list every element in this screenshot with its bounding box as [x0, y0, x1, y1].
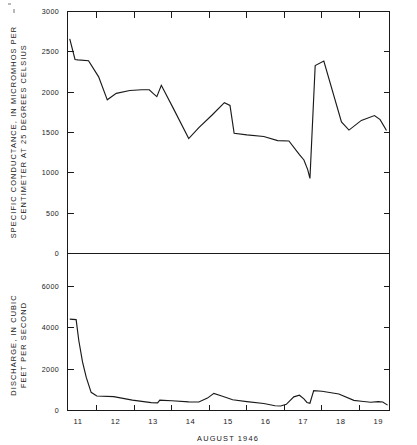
x-tick-label: 14: [186, 417, 196, 426]
upper-plot-frame: [68, 12, 390, 254]
x-tick-label: 17: [298, 417, 308, 426]
x-tick-label: 15: [223, 417, 233, 426]
x-axis-title: AUGUST 1946: [197, 434, 259, 443]
lower-y-tick-label: 0: [55, 407, 59, 415]
lower-y-tick-label: 6000: [42, 283, 59, 291]
lower-y-tick-labels: 0200040006000: [42, 283, 59, 415]
chart-figure: 050010001500200025003000 SPECIFIC CONDUC…: [0, 0, 417, 445]
scan-artifact-dot-2: [13, 9, 15, 13]
upper-y-tick-label: 2000: [42, 89, 59, 97]
x-tick-label: 13: [148, 417, 158, 426]
upper-y-axis-title-line1: SPECIFIC CONDUCTANCE, IN MICROMHOS PER: [9, 26, 18, 238]
upper-y-tick-label: 2500: [42, 48, 59, 56]
chart-canvas: 050010001500200025003000 SPECIFIC CONDUC…: [0, 0, 417, 445]
upper-y-tick-label: 0: [55, 250, 59, 258]
lower-panel: 0200040006000 DISCHARGE, IN CUBIC FEET P…: [9, 254, 390, 416]
lower-plot-frame: [68, 254, 390, 411]
lower-tick-marks: [68, 287, 390, 411]
lower-y-axis-title-line1: DISCHARGE, IN CUBIC: [9, 294, 18, 395]
upper-y-tick-label: 3000: [42, 8, 59, 16]
specific-conductance-line: [70, 39, 387, 179]
scan-artifact-dot: [8, 3, 11, 5]
lower-frame-path: [68, 254, 390, 411]
x-tick-label: 12: [111, 417, 121, 426]
upper-tick-marks: [68, 12, 390, 214]
x-axis-tick-labels: 111213141516171819: [73, 417, 383, 426]
upper-y-tick-labels: 050010001500200025003000: [42, 8, 59, 258]
x-tick-label: 19: [373, 417, 383, 426]
lower-y-tick-label: 4000: [42, 324, 59, 332]
lower-y-tick-label: 2000: [42, 366, 59, 374]
upper-frame-path: [68, 12, 390, 254]
x-tick-label: 16: [261, 417, 271, 426]
upper-y-tick-label: 1500: [42, 129, 59, 137]
upper-y-tick-label: 1000: [42, 169, 59, 177]
discharge-line: [70, 319, 388, 406]
upper-y-tick-label: 500: [46, 210, 59, 218]
lower-y-axis-title-line2: FEET PER SECOND: [19, 302, 28, 388]
upper-panel: 050010001500200025003000 SPECIFIC CONDUC…: [9, 8, 390, 258]
x-tick-label: 11: [73, 417, 82, 426]
x-tick-label: 18: [336, 417, 346, 426]
upper-y-axis-title-line2: CENTIMETER AT 25 DEGREES CELSIUS: [19, 44, 28, 220]
